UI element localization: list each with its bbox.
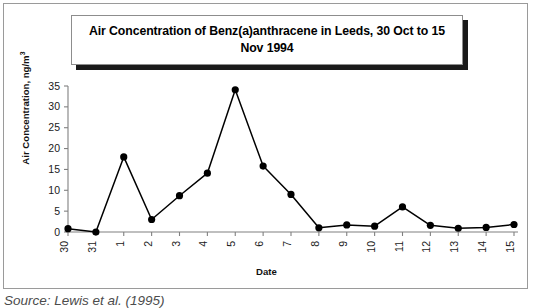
x-axis-title: Date	[4, 266, 529, 277]
y-axis-tick-label: 30	[48, 100, 60, 112]
x-axis-tick-label: 15	[504, 241, 516, 253]
x-axis-tick-label: 6	[253, 241, 265, 247]
x-axis-tick-label: 14	[476, 241, 488, 253]
y-axis-tick-label: 5	[54, 205, 60, 217]
data-point-marker	[232, 86, 239, 93]
plot-area: 051015202530353031123456789101112131415 …	[4, 4, 529, 290]
x-axis-tick-label: 11	[393, 241, 405, 252]
data-point-marker	[120, 153, 127, 160]
x-axis-tick-label: 1	[114, 241, 126, 247]
source-caption: Source: Lewis et al. (1995)	[4, 293, 165, 308]
data-point-marker	[427, 222, 434, 229]
data-point-marker	[64, 225, 71, 232]
data-point-marker	[343, 221, 350, 228]
y-axis-tick-label: 35	[48, 80, 60, 92]
y-axis-tick-label: 20	[48, 142, 60, 154]
x-axis-tick-label: 8	[309, 241, 321, 247]
y-axis-tick-label: 15	[48, 163, 60, 175]
data-point-marker	[176, 192, 183, 199]
line-chart-svg: 051015202530353031123456789101112131415	[4, 4, 529, 290]
data-point-marker	[483, 224, 490, 231]
data-point-marker	[315, 224, 322, 231]
y-axis-title-text: Air Concentration, ng/m	[20, 55, 31, 164]
data-point-marker	[399, 203, 406, 210]
data-point-marker	[260, 162, 267, 169]
x-axis-tick-label: 9	[337, 241, 349, 247]
y-axis-title-superscript: 3	[19, 52, 26, 56]
data-point-marker	[510, 221, 517, 228]
y-axis-tick-label: 25	[48, 121, 60, 133]
x-axis-tick-label: 10	[365, 241, 377, 253]
x-axis-tick-label: 31	[86, 241, 98, 253]
x-axis-tick-label: 12	[420, 241, 432, 253]
data-point-marker	[148, 216, 155, 223]
x-axis-tick-label: 30	[58, 241, 70, 253]
data-point-marker	[371, 223, 378, 230]
figure-frame: Air Concentration of Benz(a)anthracene i…	[3, 3, 528, 289]
y-axis-tick-label: 10	[48, 184, 60, 196]
data-point-marker	[287, 191, 294, 198]
x-axis-tick-label: 7	[281, 241, 293, 247]
x-axis-tick-label: 4	[197, 241, 209, 247]
x-axis-tick-label: 2	[142, 241, 154, 247]
y-axis-title: Air Concentration, ng/m3	[19, 43, 31, 173]
data-point-marker	[455, 225, 462, 232]
data-point-marker	[204, 170, 211, 177]
x-axis-tick-label: 3	[170, 241, 182, 247]
x-axis-tick-label: 5	[225, 241, 237, 247]
data-point-marker	[92, 228, 99, 235]
y-axis-tick-label: 0	[54, 226, 60, 238]
data-series-line	[68, 90, 514, 232]
x-axis-tick-label: 13	[448, 241, 460, 253]
